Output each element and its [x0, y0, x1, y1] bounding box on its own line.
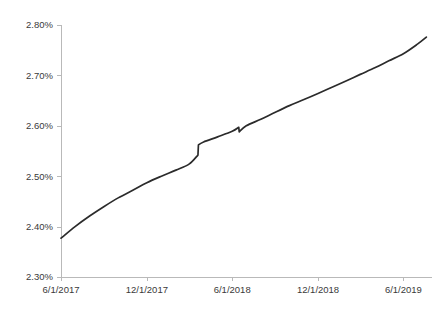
y-tick-label: 2.50% [26, 171, 53, 182]
line-chart: 2.30%2.40%2.50%2.60%2.70%2.80% 6/1/20171… [0, 0, 438, 316]
y-tick-label: 2.60% [26, 120, 53, 131]
series-group [61, 37, 426, 238]
x-tick-label: 12/1/2018 [297, 284, 339, 295]
x-tick-label: 6/1/2017 [43, 284, 80, 295]
x-tick-label: 6/1/2019 [385, 284, 422, 295]
x-tick-label: 6/1/2018 [214, 284, 251, 295]
y-tick-label: 2.40% [26, 221, 53, 232]
y-tick-label: 2.30% [26, 271, 53, 282]
y-tick-label: 2.80% [26, 19, 53, 30]
series-line-yield [61, 37, 426, 238]
y-tick-label: 2.70% [26, 70, 53, 81]
x-axis: 6/1/201712/1/20176/1/201812/1/20186/1/20… [43, 277, 432, 295]
x-tick-label: 12/1/2017 [126, 284, 168, 295]
chart-canvas: 2.30%2.40%2.50%2.60%2.70%2.80% 6/1/20171… [0, 0, 438, 316]
y-axis: 2.30%2.40%2.50%2.60%2.70%2.80% [26, 19, 61, 282]
